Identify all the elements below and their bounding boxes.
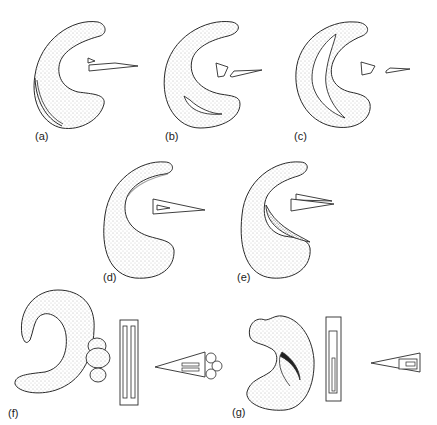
panel-g (247, 316, 420, 410)
panel-label-f: (f) (8, 407, 18, 419)
panel-e (241, 162, 334, 278)
wedge-profile-c (361, 62, 410, 75)
wedge-profile-g (371, 353, 420, 372)
panel-d (104, 162, 205, 278)
panel-label-b: (b) (165, 130, 178, 142)
panel-label-c: (c) (294, 130, 307, 142)
panel-label-e: (e) (237, 271, 250, 283)
crescent-specimen-d (104, 162, 174, 278)
panel-label-d: (d) (103, 271, 116, 283)
panel-a (34, 22, 138, 129)
diagram-canvas (0, 0, 437, 425)
side-profile-g (326, 317, 341, 401)
kidney-specimen-g (247, 316, 314, 410)
wedge-profile-a (88, 58, 138, 71)
panel-f (15, 290, 222, 405)
wedge-profile-b (216, 63, 262, 77)
horseshoe-specimen-f (15, 290, 94, 393)
panel-label-a: (a) (35, 130, 48, 142)
crescent-specimen-a (34, 22, 105, 129)
panel-label-g: (g) (232, 406, 245, 418)
wedge-profile-d (153, 199, 205, 214)
bulb-cluster-f (86, 338, 110, 382)
wedge-profile-f (155, 352, 222, 379)
wedge-profile-e (291, 194, 334, 211)
panel-c (296, 22, 410, 128)
side-profile-f (120, 320, 138, 405)
panel-b (164, 21, 262, 128)
